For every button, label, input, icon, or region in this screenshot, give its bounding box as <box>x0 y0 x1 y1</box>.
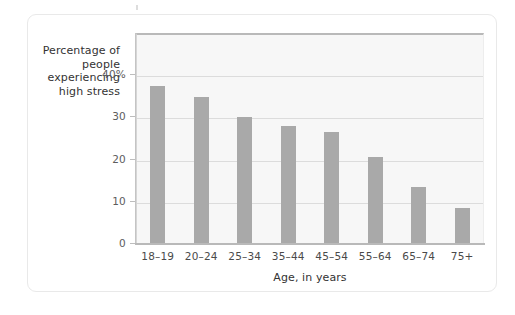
x-axis-line <box>135 243 485 245</box>
y-tick-label: 0 <box>78 237 126 249</box>
y-tick-mark <box>130 74 135 75</box>
y-tick-mark <box>130 201 135 202</box>
x-axis-title: Age, in years <box>136 271 484 284</box>
y-axis-title-line-4: high stress <box>26 85 120 99</box>
screenshot-root: Percentage of people experiencing high s… <box>0 0 515 315</box>
y-tick-mark <box>130 243 135 244</box>
y-tick-label: 20 <box>78 153 126 165</box>
bar-chart-figure: Percentage of people experiencing high s… <box>0 0 515 315</box>
x-tick-label: 75+ <box>432 250 492 262</box>
y-axis-title-line-1: Percentage of <box>26 44 120 58</box>
bar <box>194 97 209 243</box>
bar <box>150 86 165 243</box>
bar <box>281 126 296 243</box>
bar <box>411 187 426 243</box>
y-tick-mark <box>130 116 135 117</box>
y-tick-label: 30 <box>78 110 126 122</box>
bar-series <box>136 33 484 243</box>
bar <box>324 132 339 243</box>
bar <box>237 117 252 243</box>
bar <box>368 157 383 243</box>
x-axis-tick-labels: 18–1920–2425–3435–4445–5455–6465–7475+ <box>136 250 484 266</box>
y-tick-label: 40% <box>78 68 126 80</box>
bar <box>455 208 470 243</box>
y-tick-mark <box>130 159 135 160</box>
y-tick-label: 10 <box>78 195 126 207</box>
